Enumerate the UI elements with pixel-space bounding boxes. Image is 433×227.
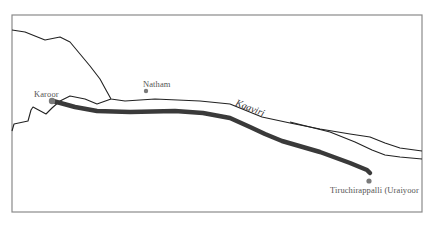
place-marker-tiruchirappalli xyxy=(366,178,371,183)
river-kaaviri-lower-bank xyxy=(290,122,422,159)
place-label-tiruchirappalli: Tiruchirappalli (Uraiyoor xyxy=(330,185,419,195)
place-marker-natham xyxy=(144,89,148,93)
place-label-karoor: Karoor xyxy=(34,89,59,99)
route-path xyxy=(53,101,370,173)
map: Karoor Natham Tiruchirappalli (Uraiyoor … xyxy=(0,0,433,227)
place-label-natham: Natham xyxy=(143,79,171,89)
